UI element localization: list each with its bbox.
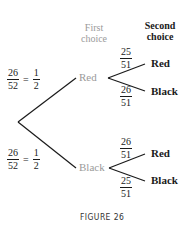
fraction: 12 [33,68,40,91]
denominator: 51 [121,188,131,199]
node-red-black: Black [151,85,178,97]
figure-caption: FIGURE 26 [80,212,124,222]
header-second-choice: Second choice [140,20,180,42]
numerator: 25 [120,176,132,188]
header-first-line2: choice [76,33,112,44]
prob-black-red: 2651 [120,137,132,160]
header-first-line1: First [76,22,112,33]
denominator: 51 [121,97,131,108]
header-first-choice: First choice [76,22,112,44]
denominator: 52 [8,160,18,171]
prob-black-black: 2551 [120,176,132,199]
fraction: 2652 [7,148,19,171]
denominator: 2 [34,160,39,171]
denominator: 52 [8,80,18,91]
node-first-black: Black [79,161,105,173]
node-black-black: Black [151,174,178,186]
header-second-line1: Second [140,20,180,31]
prob-red-black: 2651 [120,85,132,108]
prob-first-black: 2652 = 12 [7,148,40,171]
denominator: 2 [34,80,39,91]
numerator: 26 [7,68,19,80]
node-first-red: Red [79,71,97,83]
denominator: 51 [121,149,131,160]
numerator: 26 [120,85,132,97]
equals-sign: = [23,154,29,165]
equals-sign: = [23,74,29,85]
numerator: 26 [7,148,19,160]
prob-first-red: 2652 = 12 [7,68,40,91]
fraction: 2652 [7,68,19,91]
fraction: 12 [33,148,40,171]
numerator: 1 [33,68,40,80]
prob-red-red: 2551 [120,47,132,70]
numerator: 25 [120,47,132,59]
node-red-red: Red [151,57,170,69]
numerator: 1 [33,148,40,160]
numerator: 26 [120,137,132,149]
denominator: 51 [121,59,131,70]
node-black-red: Red [151,147,170,159]
header-second-line2: choice [140,31,180,42]
